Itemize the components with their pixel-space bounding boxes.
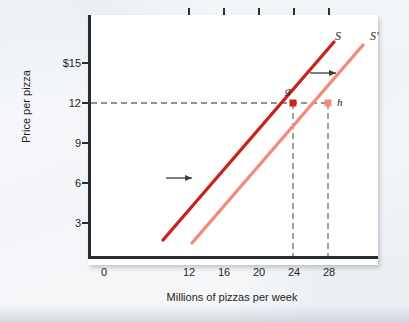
- x-tick-label-28: 28: [323, 266, 335, 278]
- shift-arrow-lower: [166, 175, 192, 181]
- supply-curve-s: [163, 42, 334, 240]
- supply-curve-s-prime: [192, 45, 363, 243]
- point-label-g: g: [285, 84, 291, 96]
- plot-area: [88, 15, 378, 265]
- y-axis-title: Price per pizza: [20, 70, 32, 143]
- y-tick-label-9: 9: [75, 137, 81, 149]
- x-tick-16: [223, 8, 225, 15]
- y-tick-label-3: 3: [75, 217, 81, 229]
- y-tick-label-15: $15: [63, 57, 81, 69]
- x-tick-label-12: 12: [183, 266, 195, 278]
- x-tick-12: [188, 8, 190, 15]
- x-tick-28: [328, 8, 330, 15]
- x-tick-label-16: 16: [218, 266, 230, 278]
- origin-label: 0: [101, 266, 107, 278]
- shift-arrow-upper: [310, 70, 336, 76]
- curve-label-s: S: [335, 29, 341, 44]
- curve-label-s-prime: S′: [370, 29, 379, 44]
- y-tick-label-12: 12: [69, 97, 81, 109]
- point-g-marker: [290, 100, 297, 107]
- point-h-marker: [325, 100, 332, 107]
- x-tick-20: [258, 8, 260, 15]
- chart-panel: $15 12 9 6 3 12 16 20 24 28: [88, 15, 378, 265]
- x-tick-24: [293, 8, 295, 15]
- y-tick-label-6: 6: [75, 177, 81, 189]
- x-axis-title: Millions of pizzas per week: [167, 291, 298, 303]
- x-tick-label-20: 20: [253, 266, 265, 278]
- point-label-h: h: [337, 96, 343, 108]
- x-tick-label-24: 24: [288, 266, 300, 278]
